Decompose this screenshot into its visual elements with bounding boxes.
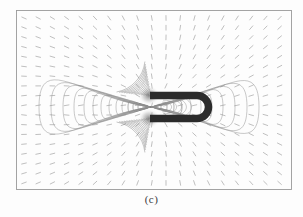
field-arrow [50, 76, 55, 77]
field-arrow [64, 134, 69, 135]
field-arrow [22, 66, 27, 67]
field-arrow [121, 105, 126, 106]
panel-label-c: (c) [0, 192, 303, 206]
field-arrow [93, 124, 98, 125]
field-arrow [166, 151, 167, 156]
figure-panel-c: (c) [0, 0, 303, 217]
magnetic-field-plot [0, 0, 303, 217]
field-arrow [50, 115, 55, 116]
field-arrow [36, 115, 41, 116]
field-arrow [22, 115, 27, 116]
